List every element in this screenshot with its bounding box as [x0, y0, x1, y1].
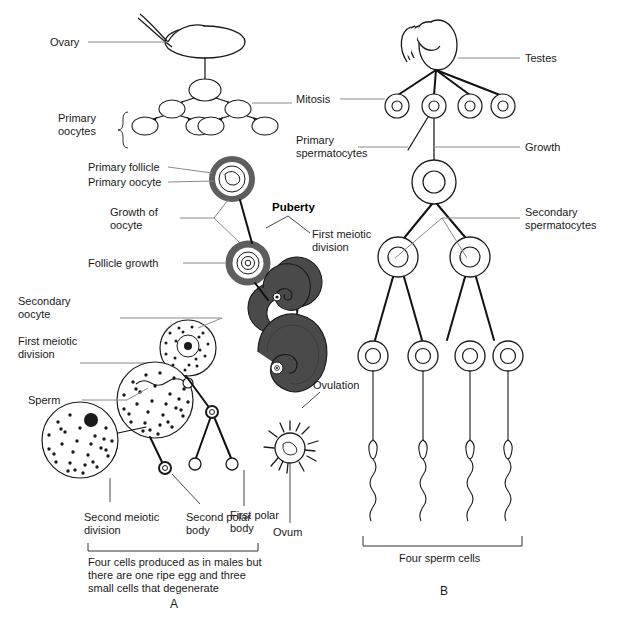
puberty-connector	[266, 216, 310, 233]
label-ovum: Ovum	[273, 526, 302, 538]
spermatogonium-cell	[385, 94, 409, 118]
label-secondary-spermatocytes-line1: Secondary	[525, 206, 578, 218]
primary-oocytes-brace	[118, 112, 128, 148]
testes-organ	[401, 20, 457, 70]
label-primary-follicle: Primary follicle	[88, 161, 160, 173]
label-primary-spermatocytes-line1: Primary	[296, 134, 334, 146]
label-growth-of-oocyte-line2: oocyte	[110, 219, 142, 231]
mature-sperm-cell	[369, 371, 377, 521]
label-primary-oocyte: Primary oocyte	[88, 176, 161, 188]
growth-of-oocyte-leader	[180, 200, 228, 218]
caption-a-line1: Four cells produced as in males but	[88, 556, 262, 568]
fertilized-ovum-cell	[117, 362, 193, 438]
ovulation-leader	[302, 392, 320, 408]
caption-a-line3: small cells that degenerate	[88, 582, 219, 594]
label-testes: Testes	[525, 52, 557, 64]
caption-b-four-sperm-cells: Four sperm cells	[399, 552, 481, 564]
second-polar-body-leader	[172, 474, 200, 504]
gametogenesis-figure: Ovary Primary oocytes	[0, 0, 623, 618]
ovary-organ	[138, 14, 245, 58]
primary-spermatocyte-group	[408, 117, 456, 204]
label-secondary-oocyte-line2: oocyte	[18, 308, 50, 320]
label-second-polar-body-line2: body	[186, 524, 210, 536]
panel-b-caption-bracket	[363, 536, 522, 546]
label-second-meiotic-division-line2: division	[84, 524, 121, 536]
label-first-meiotic-division-right-line1: First meiotic	[312, 228, 372, 240]
label-primary-spermatocytes-line2: spermatocytes	[296, 147, 368, 159]
panel-a-letter: A	[170, 597, 178, 611]
label-first-meiotic-division-right-line2: division	[312, 241, 349, 253]
label-growth: Growth	[525, 141, 560, 153]
label-second-meiotic-division-line1: Second meiotic	[84, 511, 160, 523]
label-secondary-oocyte-line1: Secondary	[18, 295, 71, 307]
label-follicle-growth: Follicle growth	[88, 257, 158, 269]
label-first-meiotic-division-line2: division	[18, 348, 55, 360]
secondary-spermatocyte-group	[378, 204, 490, 277]
mature-sperm-cell	[419, 371, 427, 521]
label-second-polar-body-line1: Second polar	[186, 511, 251, 523]
mature-sperm-cells	[369, 371, 512, 521]
oogenesis-mitosis-tree	[132, 58, 278, 135]
spermatid-cell	[408, 341, 438, 371]
ovum-cell	[264, 421, 318, 473]
oogenesis-maturation-path-1	[240, 200, 252, 243]
mature-sperm-cell	[504, 371, 512, 521]
growth-of-oocyte-leader-2	[214, 218, 240, 243]
label-ovary: Ovary	[50, 36, 80, 48]
panel-b-letter: B	[440, 584, 448, 598]
primary-follicle-cell	[212, 159, 252, 199]
label-primary-oocytes-line2: oocytes	[58, 125, 96, 137]
spermatid-cell	[493, 341, 523, 371]
diagram-canvas: Ovary Primary oocytes	[0, 0, 623, 618]
mature-sperm-cell	[466, 371, 474, 521]
label-first-polar-body-line2: body	[230, 522, 254, 534]
caption-a-line2: there are one ripe egg and three	[88, 569, 246, 581]
label-first-meiotic-division-line1: First meiotic	[18, 335, 78, 347]
label-puberty: Puberty	[272, 201, 315, 213]
primary-oocyte-leader	[168, 181, 214, 182]
primary-follicle-leader	[168, 167, 212, 173]
spermatid-row	[358, 277, 523, 371]
label-ovulation: Ovulation	[313, 379, 359, 391]
spermatogonium-cell	[458, 94, 482, 118]
label-mitosis: Mitosis	[296, 93, 331, 105]
spermatogonium-cell	[491, 94, 515, 118]
label-growth-of-oocyte-line1: Growth of	[110, 206, 159, 218]
spermatid-cell	[455, 341, 485, 371]
spermatogonia-row	[385, 70, 515, 118]
spermatogonium-cell	[422, 94, 446, 118]
spermatid-cell	[358, 341, 388, 371]
ootid-cell	[42, 402, 118, 478]
panel-a-caption-bracket	[88, 543, 258, 551]
label-sperm: Sperm	[28, 394, 60, 406]
label-secondary-spermatocytes-line2: spermatocytes	[525, 219, 597, 231]
label-primary-oocytes-line1: Primary	[58, 112, 96, 124]
follicle-growth-cell	[229, 244, 267, 282]
